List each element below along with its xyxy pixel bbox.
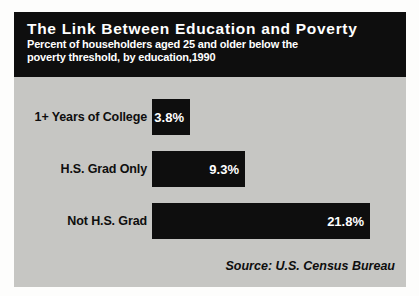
chart-panel: The Link Between Education and Poverty P… — [14, 12, 406, 287]
chart-plot-area: 1+ Years of College3.8%H.S. Grad Only9.3… — [14, 77, 406, 287]
value-label: 3.8% — [154, 110, 190, 125]
bar-rows: 1+ Years of College3.8%H.S. Grad Only9.3… — [14, 99, 406, 239]
bar-row: H.S. Grad Only9.3% — [14, 151, 406, 187]
chart-subtitle-line-1: Percent of householders aged 25 and olde… — [27, 38, 393, 51]
source-credit: Source: U.S. Census Bureau — [226, 259, 396, 273]
bar-row: 1+ Years of College3.8% — [14, 99, 406, 135]
bar: 3.8% — [152, 99, 190, 135]
value-label: 21.8% — [327, 214, 370, 229]
chart-title: The Link Between Education and Poverty — [27, 19, 393, 38]
bar: 21.8% — [152, 203, 370, 239]
chart-figure: The Link Between Education and Poverty P… — [0, 0, 419, 296]
category-label: 1+ Years of College — [14, 110, 152, 124]
category-label: H.S. Grad Only — [14, 162, 152, 176]
bar: 9.3% — [152, 151, 245, 187]
category-label: Not H.S. Grad — [14, 214, 152, 228]
value-label: 9.3% — [209, 162, 245, 177]
chart-header: The Link Between Education and Poverty P… — [14, 12, 406, 77]
bar-row: Not H.S. Grad21.8% — [14, 203, 406, 239]
chart-subtitle-line-2: poverty threshold, by education,1990 — [27, 51, 393, 64]
